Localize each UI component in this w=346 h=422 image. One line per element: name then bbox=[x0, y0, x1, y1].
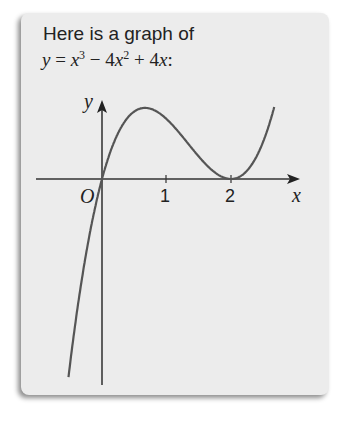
x-axis-label: x bbox=[291, 184, 301, 206]
x-tick-label-2: 2 bbox=[225, 186, 235, 206]
origin-label: O bbox=[80, 185, 94, 207]
cubic-graph: O 1 2 x y bbox=[0, 0, 346, 422]
cubic-curve bbox=[69, 107, 275, 377]
y-axis-label: y bbox=[82, 90, 93, 113]
x-tick-label-1: 1 bbox=[160, 186, 170, 206]
